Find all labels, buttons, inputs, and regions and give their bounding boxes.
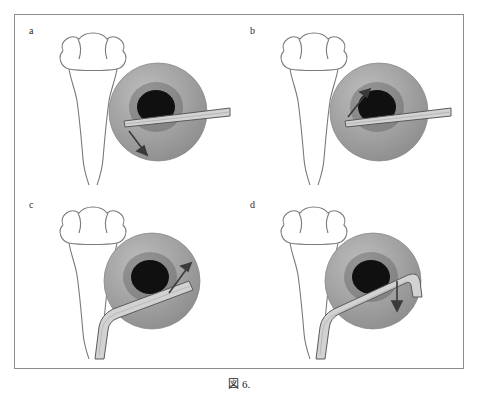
panel-a: a bbox=[19, 19, 237, 191]
panel-c: c bbox=[19, 193, 237, 365]
caption-number: 6. bbox=[242, 378, 250, 390]
figure-caption: 図6. bbox=[0, 375, 478, 391]
panel-a-label: a bbox=[29, 25, 34, 36]
panel-b-illustration bbox=[240, 19, 458, 191]
panel-b-label: b bbox=[250, 25, 255, 36]
pupil-c bbox=[131, 260, 169, 294]
panel-c-illustration bbox=[19, 193, 237, 365]
panel-d: d bbox=[240, 193, 458, 365]
panel-b: b bbox=[240, 19, 458, 191]
panel-c-label: c bbox=[29, 199, 34, 210]
panel-d-label: d bbox=[250, 199, 255, 210]
figure-root: a bbox=[0, 0, 478, 412]
caption-label: 図 bbox=[228, 378, 239, 390]
figure-frame: a bbox=[14, 14, 464, 369]
panel-a-illustration bbox=[19, 19, 237, 191]
panel-d-illustration bbox=[240, 193, 458, 365]
